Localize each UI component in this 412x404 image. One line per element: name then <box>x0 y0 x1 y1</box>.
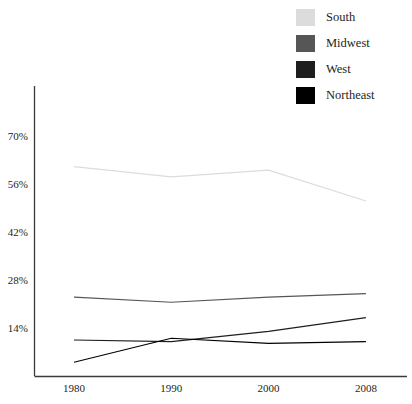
series-line-south <box>74 167 366 201</box>
x-axis-tick-label: 1980 <box>63 382 86 394</box>
x-axis-tick-label: 1990 <box>160 382 183 394</box>
x-axis-tick-label: 2000 <box>258 382 281 394</box>
y-axis-tick-label: 70% <box>8 130 28 142</box>
y-axis-tick-labels: 14%28%42%56%70% <box>8 130 28 334</box>
y-axis-tick-label: 42% <box>8 226 28 238</box>
series-line-midwest <box>74 294 366 303</box>
series-line-west <box>74 318 366 342</box>
line-chart-plot: 14%28%42%56%70% 1980199020002008 <box>0 0 412 404</box>
series-line-northeast <box>74 338 366 362</box>
x-axis-tick-labels: 1980199020002008 <box>63 382 377 394</box>
y-axis-tick-label: 56% <box>8 178 28 190</box>
chart-series-group <box>74 167 366 363</box>
y-axis-tick-label: 14% <box>8 322 28 334</box>
x-axis-tick-label: 2008 <box>355 382 378 394</box>
y-axis-tick-label: 28% <box>8 274 28 286</box>
chart-page: South Midwest West Northeast 14%28%42%56… <box>0 0 412 404</box>
